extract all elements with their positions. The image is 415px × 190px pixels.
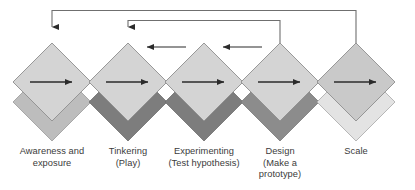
node-awareness[interactable]	[13, 43, 91, 141]
node-label-design: Design (Make a prototype)	[242, 146, 318, 181]
node-scale[interactable]	[317, 43, 395, 141]
connector-scale-to-awareness	[52, 11, 356, 45]
node-label-scale: Scale	[320, 146, 392, 158]
node-design[interactable]	[241, 43, 319, 141]
diagram-canvas: Awareness and exposure Tinkering (Play) …	[0, 0, 415, 190]
connector-design-to-tinkering	[128, 21, 280, 45]
node-experimenting[interactable]	[165, 43, 243, 141]
node-tinkering[interactable]	[89, 43, 167, 141]
